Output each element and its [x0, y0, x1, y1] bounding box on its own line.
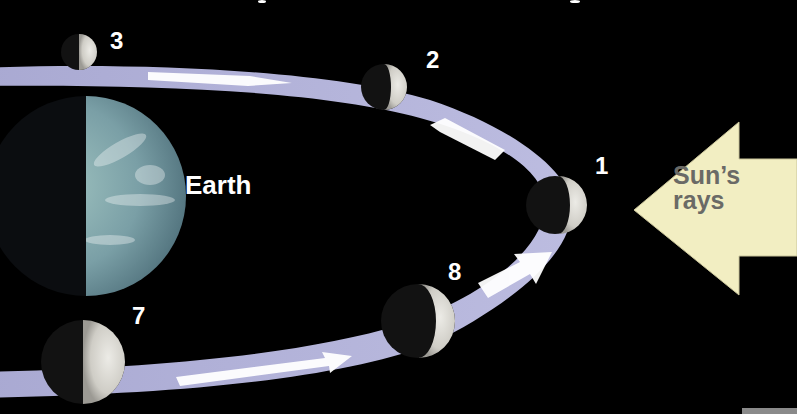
- moon-phases-diagram: 3 2 1 8 7 Earth Sun’s rays: [0, 0, 797, 414]
- moon-phase-2: [361, 64, 407, 110]
- corner-fragment: [742, 408, 797, 414]
- phase-label-3: 3: [110, 27, 123, 55]
- cut-off-title-fragment: [570, 0, 580, 3]
- sun-rays-label-line1: Sun’s: [673, 163, 740, 188]
- moon-phase-1: [526, 176, 587, 234]
- earth-label: Earth: [185, 170, 251, 201]
- earth: [0, 96, 186, 296]
- moon-phase-7: [41, 320, 125, 404]
- sun-rays-label-line2: rays: [673, 188, 740, 213]
- phase-label-1: 1: [595, 152, 608, 180]
- phase-label-7: 7: [132, 302, 145, 330]
- moon-phase-8: [381, 284, 455, 358]
- sun-rays-label: Sun’s rays: [673, 163, 740, 213]
- moon-phase-3: [61, 34, 97, 70]
- phase-label-2: 2: [426, 46, 439, 74]
- phase-label-8: 8: [448, 258, 461, 286]
- cut-off-title-fragment: [258, 0, 266, 3]
